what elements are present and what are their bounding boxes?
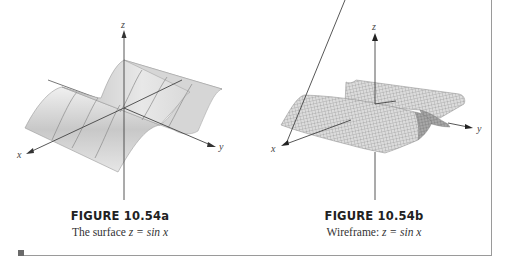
y-arrow-icon-b xyxy=(465,124,473,129)
frame-right-border xyxy=(491,0,492,256)
figure-b-caption-prefix: Wireframe: xyxy=(327,226,382,238)
end-of-example-marker-icon xyxy=(18,250,24,256)
figure-b-title: FIGURE 10.54b xyxy=(274,209,474,223)
figure-a-title: FIGURE 10.54a xyxy=(20,209,220,223)
figure-a-caption-math: z = sin x xyxy=(129,226,168,238)
z-axis-label-b: z xyxy=(371,21,376,32)
figure-b-caption-math: z = sin x xyxy=(382,226,421,238)
figure-a-caption-prefix: The surface xyxy=(72,226,129,238)
figure-panel: z x y xyxy=(0,0,506,267)
z-arrow-icon-b xyxy=(372,33,378,41)
y-axis-label-b: y xyxy=(476,123,482,134)
wireframe-plot-b: z x y xyxy=(0,0,506,205)
x-axis-label-b: x xyxy=(270,143,276,154)
figure-a-caption: The surface z = sin x xyxy=(20,226,220,238)
x-arrow-icon-b xyxy=(281,140,289,146)
frame-bottom-border xyxy=(24,255,492,256)
figure-b-caption: Wireframe: z = sin x xyxy=(274,226,474,238)
